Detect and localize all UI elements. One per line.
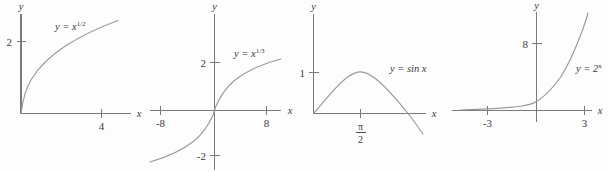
x-tick-label-3: 3 <box>582 117 588 129</box>
y-axis-label: y <box>211 1 217 12</box>
y-axis-label: y <box>310 1 316 12</box>
curve-label-base: y = x <box>233 48 256 59</box>
curve-label-cbrt: y = x1/3 <box>233 47 265 59</box>
x-axis-label: x <box>431 108 437 119</box>
x-axis-label: x <box>287 105 293 116</box>
y-axis-label: y <box>533 0 539 11</box>
y-tick-label-2: 2 <box>201 57 207 69</box>
figure-container: 2 4 y x y = x1/2 2 -2 -8 <box>0 0 609 172</box>
curve-sin <box>314 72 424 134</box>
y-tick-label-neg2: -2 <box>197 150 206 162</box>
curve-label-exponent: 1/2 <box>77 20 86 28</box>
x-tick-label-4: 4 <box>99 120 105 132</box>
curve-exp <box>460 13 588 110</box>
curve-label-exponent: x <box>598 62 602 70</box>
chart-panel-exp: 8 -3 3 y x y = 2x <box>452 0 609 172</box>
x-axis-label: x <box>597 105 603 116</box>
curve-label-base: y = 2 <box>575 63 599 74</box>
curve-label-sin: y = sin x <box>389 63 427 74</box>
curve-label-sqrt: y = x1/2 <box>54 20 86 32</box>
chart-panel-cbrt: 2 -2 -8 8 y x y = x1/3 <box>150 0 302 172</box>
x-tick-label-pi-numerator: π <box>358 121 363 132</box>
x-tick-label-pi-denominator: 2 <box>358 134 363 145</box>
curve-label-base: y = x <box>54 21 77 32</box>
chart-panel-sin: 1 π 2 y x y = sin x <box>302 0 452 172</box>
curve-sqrt <box>21 21 118 114</box>
y-tick-label-1: 1 <box>300 67 306 79</box>
curve-label-exp: y = 2x <box>575 62 602 74</box>
y-tick-label-2: 2 <box>7 36 13 48</box>
x-tick-label-8: 8 <box>264 117 270 129</box>
x-tick-label-neg3: -3 <box>483 117 493 129</box>
chart-panel-sqrt: 2 4 y x y = x1/2 <box>0 0 150 172</box>
y-tick-label-8: 8 <box>523 38 529 50</box>
x-tick-label-neg8: -8 <box>156 117 166 129</box>
x-axis-label: x <box>136 108 142 119</box>
y-axis-label: y <box>18 1 24 12</box>
curve-label-exponent: 1/3 <box>256 47 265 55</box>
